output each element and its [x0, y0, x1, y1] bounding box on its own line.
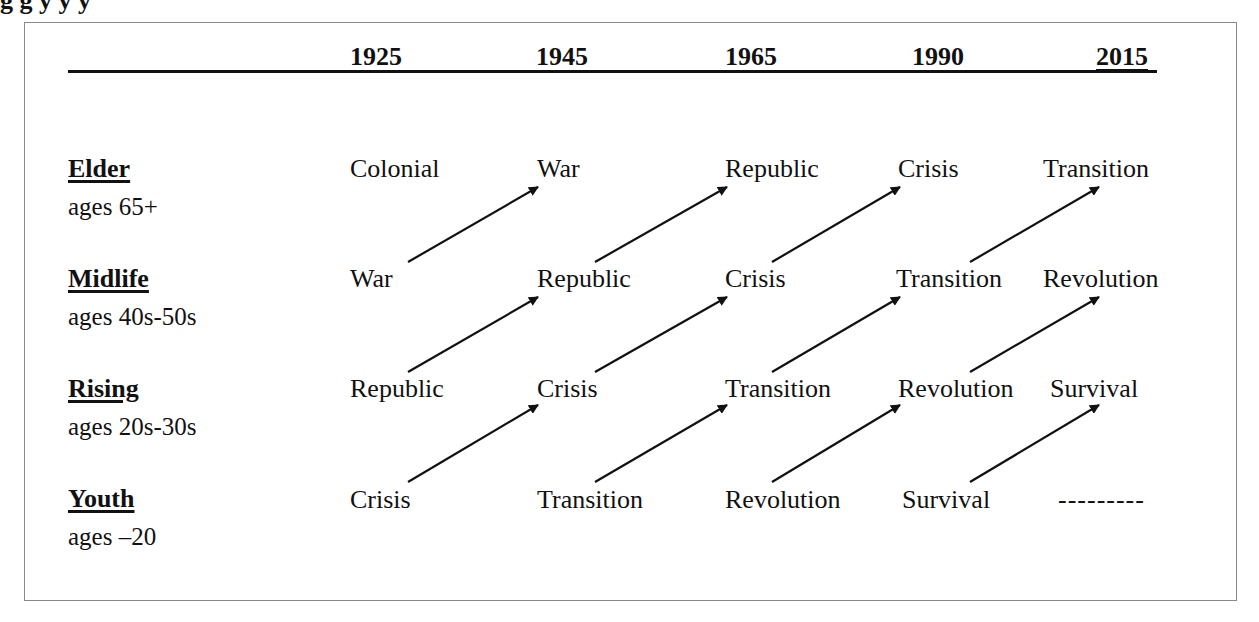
arrow-icon [970, 405, 1099, 482]
arrow-icon [408, 297, 538, 372]
arrow-icon [595, 405, 727, 482]
arrow-icon [772, 297, 900, 372]
arrow-icon [970, 297, 1099, 372]
arrow-icon [970, 187, 1099, 262]
arrow-icon [772, 405, 900, 482]
arrow-icon [595, 297, 727, 372]
arrow-icon [595, 187, 727, 262]
arrow-icon [408, 405, 538, 482]
arrow-icon [772, 187, 900, 262]
arrow-icon [408, 187, 538, 262]
generation-arrows [0, 0, 1259, 622]
